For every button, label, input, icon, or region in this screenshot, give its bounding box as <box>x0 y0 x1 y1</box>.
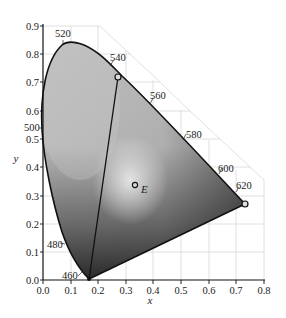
y-tick-9: 0.9 <box>26 21 39 32</box>
x-tick-6: 0.6 <box>202 285 215 296</box>
y-tick-labels: 0.0 0.1 0.2 0.3 0.4 0.5 0.6 0.7 0.8 0.9 <box>26 21 40 286</box>
x-tick-8: 0.8 <box>257 285 270 296</box>
wavelength-580: 580 <box>186 129 202 140</box>
spectral-locus-area <box>30 30 270 290</box>
wavelength-540: 540 <box>110 52 126 63</box>
wavelength-600: 600 <box>218 163 234 174</box>
y-tick-3: 0.3 <box>26 191 39 202</box>
y-tick-8: 0.8 <box>26 49 39 60</box>
y-tick-5: 0.5 <box>26 134 39 145</box>
green-primary-marker <box>115 74 121 80</box>
y-tick-2: 0.2 <box>26 219 39 230</box>
wavelength-480: 480 <box>47 239 63 250</box>
white-point-label: E <box>140 183 148 195</box>
x-axis-title: x <box>147 294 153 306</box>
x-tick-7: 0.7 <box>229 285 242 296</box>
y-tick-1: 0.1 <box>26 247 39 258</box>
x-tick-labels: 0.0 0.1 0.2 0.3 0.4 0.5 0.6 0.7 0.8 <box>36 285 270 296</box>
y-axis-title: y <box>13 152 19 164</box>
wavelength-500: 500 <box>24 122 40 133</box>
x-tick-0: 0.0 <box>36 285 49 296</box>
x-tick-5: 0.5 <box>174 285 187 296</box>
y-tick-7: 0.7 <box>26 77 39 88</box>
wavelength-620: 620 <box>236 180 252 191</box>
wavelength-460: 460 <box>62 270 78 281</box>
x-tick-1: 0.1 <box>64 285 77 296</box>
y-tick-6: 0.6 <box>26 106 39 117</box>
wavelength-560: 560 <box>150 90 166 101</box>
wavelength-520: 520 <box>55 28 71 39</box>
x-tick-2: 0.2 <box>91 285 104 296</box>
x-tick-3: 0.3 <box>119 285 132 296</box>
y-tick-4: 0.4 <box>26 162 40 173</box>
chromaticity-diagram: E 520 540 560 580 600 620 500 480 460 0. <box>0 0 286 318</box>
red-primary-marker <box>242 201 248 207</box>
